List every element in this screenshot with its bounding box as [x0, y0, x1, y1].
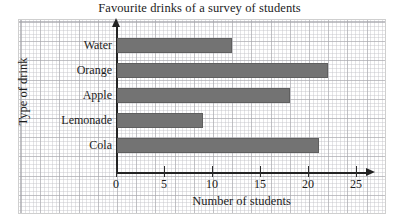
- category-label-lemonade: Lemonade: [61, 113, 112, 128]
- x-axis-tick: [212, 166, 213, 177]
- x-axis-tick: [164, 166, 165, 177]
- x-axis-tick: [116, 166, 117, 177]
- category-label-orange: Orange: [77, 63, 112, 78]
- x-axis-tick-label: 5: [144, 177, 184, 192]
- bar-apple: [117, 88, 290, 103]
- y-axis-arrow-icon: [112, 18, 120, 27]
- x-axis-tick-label: 10: [192, 177, 232, 192]
- x-axis-tick-label: 25: [336, 177, 376, 192]
- x-axis-tick-label: 20: [288, 177, 328, 192]
- y-axis-title: Type of drink: [16, 32, 31, 152]
- bar-lemonade: [117, 113, 203, 128]
- category-label-cola: Cola: [89, 138, 112, 153]
- x-axis-tick: [356, 166, 357, 177]
- category-label-apple: Apple: [83, 88, 112, 103]
- x-axis-arrow-icon: [366, 168, 375, 176]
- bar-orange: [117, 63, 328, 78]
- bar-chart-figure: Favourite drinks of a survey of students…: [0, 0, 399, 222]
- x-axis-tick-label: 0: [96, 177, 136, 192]
- x-axis-line: [116, 172, 367, 174]
- category-label-water: Water: [84, 38, 112, 53]
- bar-water: [117, 38, 232, 53]
- x-axis-tick: [308, 166, 309, 177]
- x-axis-tick: [260, 166, 261, 177]
- bar-cola: [117, 138, 319, 153]
- chart-title: Favourite drinks of a survey of students: [0, 1, 399, 16]
- x-axis-title: Number of students: [116, 194, 367, 209]
- x-axis-tick-label: 15: [240, 177, 280, 192]
